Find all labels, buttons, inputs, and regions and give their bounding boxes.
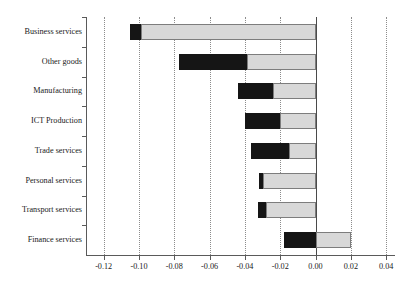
x-tick [210,255,211,260]
plot-area [86,17,395,255]
bar-segment-light [289,143,315,159]
x-tick [174,255,175,260]
x-tick [351,255,352,260]
bar-segment-dark [284,232,316,248]
bar-segment-light [273,83,315,99]
x-tick [386,255,387,260]
x-tick-label: 0.00 [308,262,322,272]
x-tick-label: -0.02 [272,262,289,272]
bar-segment-light [266,202,315,218]
bar-chart: Business servicesOther goodsManufacturin… [0,0,409,290]
x-tick-label: -0.06 [201,262,218,272]
x-tick-label: 0.04 [379,262,393,272]
bar-segment-dark [238,83,273,99]
category-label: Transport services [0,205,82,215]
bar-segment-dark [130,24,141,40]
category-label: Finance services [0,235,82,245]
category-label: Personal services [0,176,82,186]
bar-segment-light [263,173,316,189]
x-tick-label: -0.12 [95,262,112,272]
x-tick [316,255,317,260]
x-tick-label: -0.04 [236,262,253,272]
bar-segment-dark [179,54,247,70]
x-tick-label: 0.02 [344,262,358,272]
bar-segment-light [141,24,316,40]
bar-segment-dark [251,143,289,159]
x-tick [280,255,281,260]
category-label: Manufacturing [0,86,82,96]
bar-segment-light [316,232,351,248]
category-label: Other goods [0,57,82,67]
x-tick [104,255,105,260]
bar-segment-light [280,113,315,129]
category-label: Business services [0,27,82,37]
x-tick-label: -0.10 [130,262,147,272]
bar-segment-dark [245,113,280,129]
bar-segment-light [247,54,316,70]
category-labels: Business servicesOther goodsManufacturin… [0,0,82,238]
x-tick [139,255,140,260]
category-label: ICT Production [0,116,82,126]
x-tick-label: -0.08 [166,262,183,272]
x-axis-line [86,255,395,256]
x-tick [245,255,246,260]
bar-segment-dark [258,202,266,218]
category-label: Trade services [0,146,82,156]
